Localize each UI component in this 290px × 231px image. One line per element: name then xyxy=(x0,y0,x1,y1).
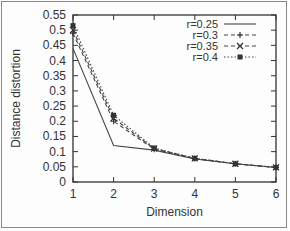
y-tick-label: 0.4 xyxy=(49,54,66,68)
y-tick-label: 0 xyxy=(59,175,66,189)
y-tick-label: 0.55 xyxy=(43,8,67,22)
x-tick-label: 5 xyxy=(232,187,239,201)
legend-label: r=0.4 xyxy=(193,51,218,63)
x-axis-label: Dimension xyxy=(146,205,203,219)
data-point-marker xyxy=(152,145,157,150)
x-tick-label: 4 xyxy=(191,187,198,201)
y-axis-label: Distance distortion xyxy=(9,49,23,148)
series-line-r=0.3 xyxy=(73,33,276,167)
data-point-marker xyxy=(192,156,197,161)
y-tick-label: 0.2 xyxy=(49,114,66,128)
data-point-marker xyxy=(233,161,238,166)
x-tick-label: 1 xyxy=(70,187,77,201)
legend-marker xyxy=(237,43,243,49)
y-tick-label: 0.35 xyxy=(43,69,67,83)
x-tick-label: 6 xyxy=(273,187,280,201)
y-tick-label: 0.5 xyxy=(49,23,66,37)
data-point-marker xyxy=(111,113,116,118)
y-tick-label: 0.25 xyxy=(43,99,67,113)
legend-marker xyxy=(237,32,243,38)
legend-marker xyxy=(238,55,243,60)
y-tick-label: 0.1 xyxy=(49,145,66,159)
data-point-marker xyxy=(71,23,76,28)
y-tick-label: 0.05 xyxy=(43,160,67,174)
line-chart: 00.050.10.150.20.250.30.350.40.450.50.55… xyxy=(0,0,290,231)
x-tick-label: 2 xyxy=(110,187,117,201)
y-tick-label: 0.45 xyxy=(43,38,67,52)
data-point-marker xyxy=(274,165,279,170)
series-line-r=0.25 xyxy=(73,48,276,167)
y-tick-label: 0.3 xyxy=(49,84,66,98)
x-tick-label: 3 xyxy=(151,187,158,201)
y-tick-label: 0.15 xyxy=(43,129,67,143)
